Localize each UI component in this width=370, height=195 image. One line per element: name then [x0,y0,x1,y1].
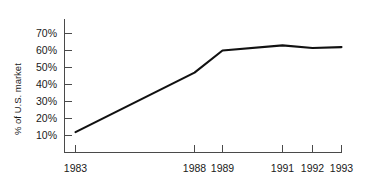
x-tick-label: 1983 [64,162,88,174]
y-axis-ticks [65,34,73,136]
x-tick-label: 1991 [271,162,295,174]
x-tick-label: 1993 [330,162,354,174]
x-axis-ticks [76,145,342,153]
data-line-us-market [76,45,342,132]
y-tick-label: 40% [36,78,57,90]
x-tick-label: 1989 [211,162,235,174]
y-tick-label: 10% [36,129,57,141]
x-tick-label: 1988 [183,162,207,174]
chart-canvas: % of U.S. market 70% 60% 50% 40% 30% 20%… [0,0,370,195]
y-axis-title: % of U.S. market [12,63,23,135]
y-tick-label: 50% [36,61,57,73]
x-tick-label: 1992 [301,162,325,174]
y-tick-label: 20% [36,112,57,124]
line-chart: % of U.S. market 70% 60% 50% 40% 30% 20%… [0,0,370,195]
y-tick-label: 60% [36,44,57,56]
y-tick-label: 30% [36,95,57,107]
y-tick-label: 70% [36,27,57,39]
